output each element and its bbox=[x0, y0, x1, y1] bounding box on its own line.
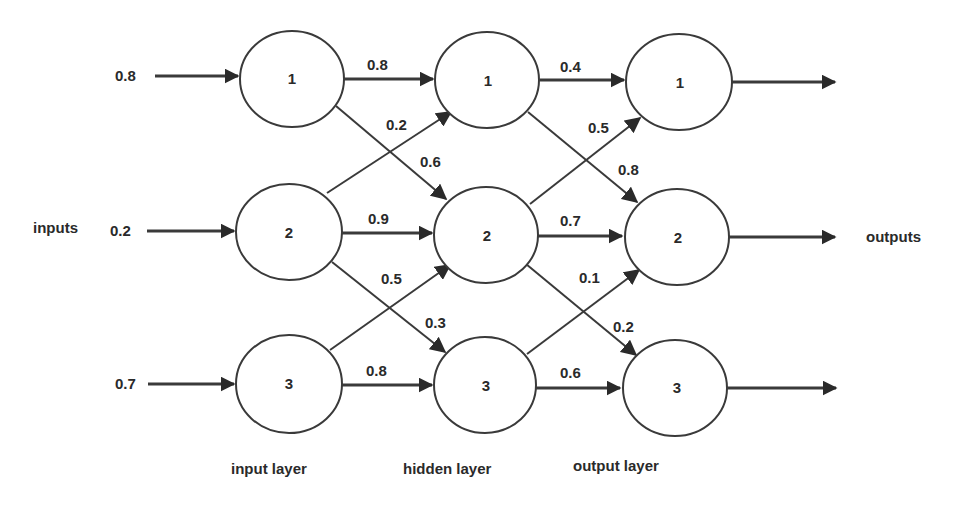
input-layer: 1 2 3 bbox=[236, 31, 344, 433]
weight-i3-h3: 0.8 bbox=[366, 362, 387, 379]
output-arrows bbox=[727, 82, 836, 388]
output-layer: 1 2 3 bbox=[623, 34, 732, 436]
output-node-1: 1 bbox=[626, 34, 732, 130]
output-node-3: 3 bbox=[623, 340, 727, 436]
hidden-output-edges bbox=[526, 80, 640, 388]
node-label: 1 bbox=[676, 74, 684, 91]
input-value-2: 0.2 bbox=[110, 222, 131, 239]
weight-i1-h1: 0.8 bbox=[367, 56, 388, 73]
weight-h2-o1: 0.5 bbox=[588, 119, 609, 136]
hidden-layer: 1 2 3 bbox=[434, 32, 539, 433]
node-label: 3 bbox=[673, 379, 681, 396]
input-node-3: 3 bbox=[236, 335, 342, 433]
weight-h1-o1: 0.4 bbox=[560, 58, 582, 75]
input-value-3: 0.7 bbox=[115, 375, 136, 392]
input-arrows bbox=[147, 76, 238, 384]
hidden-node-2: 2 bbox=[434, 187, 538, 283]
hidden-layer-label: hidden layer bbox=[403, 460, 492, 477]
outputs-label: outputs bbox=[866, 228, 921, 245]
node-label: 3 bbox=[285, 375, 293, 392]
node-label: 1 bbox=[288, 70, 296, 87]
weight-h3-o2: 0.1 bbox=[579, 269, 600, 286]
weight-h2-o2: 0.7 bbox=[560, 212, 581, 229]
weight-i2-h3: 0.3 bbox=[425, 314, 446, 331]
input-node-2: 2 bbox=[236, 184, 342, 280]
hidden-node-1: 1 bbox=[435, 32, 539, 128]
node-label: 2 bbox=[285, 224, 293, 241]
edge-h1-o2 bbox=[528, 112, 637, 202]
hidden-node-3: 3 bbox=[434, 337, 536, 433]
node-label: 3 bbox=[482, 377, 490, 394]
output-layer-label: output layer bbox=[573, 457, 659, 474]
input-value-1: 0.8 bbox=[115, 67, 136, 84]
weight-h1-o2: 0.8 bbox=[618, 161, 639, 178]
node-label: 2 bbox=[674, 229, 682, 246]
input-node-1: 1 bbox=[240, 31, 344, 127]
weight-i2-h2: 0.9 bbox=[368, 210, 389, 227]
input-layer-label: input layer bbox=[231, 460, 307, 477]
output-node-2: 2 bbox=[625, 189, 729, 285]
weight-h3-o3: 0.6 bbox=[560, 364, 581, 381]
weight-h2-o3: 0.2 bbox=[613, 318, 634, 335]
neural-network-diagram: 1 2 3 1 2 3 1 2 bbox=[0, 0, 972, 509]
node-label: 2 bbox=[483, 227, 491, 244]
weight-i3-h2: 0.5 bbox=[381, 270, 402, 287]
inputs-label: inputs bbox=[33, 219, 78, 236]
weight-i1-h2: 0.6 bbox=[420, 153, 441, 170]
weight-i2-h1: 0.2 bbox=[386, 116, 407, 133]
node-label: 1 bbox=[484, 72, 492, 89]
